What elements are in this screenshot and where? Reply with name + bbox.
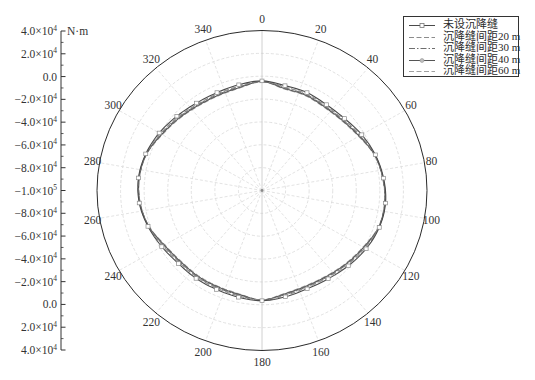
series-marker (175, 114, 179, 118)
radial-axis-tick-label: 4.0×104 (21, 24, 57, 38)
series-marker (346, 264, 350, 268)
series-marker (343, 117, 347, 121)
grid-spoke (156, 68, 262, 191)
grid-spoke (206, 40, 262, 190)
series-marker (176, 262, 180, 266)
angle-tick-label: 20 (315, 23, 327, 35)
series-marker (305, 91, 309, 95)
series-marker (160, 245, 164, 249)
legend-line-sample (408, 43, 436, 53)
series-marker (237, 83, 241, 87)
angle-tick-label: 280 (84, 155, 102, 167)
grid-spoke (262, 191, 318, 341)
series-marker (146, 225, 150, 229)
radial-axis-tick-label: 2.0×104 (21, 320, 57, 334)
grid-spoke (100, 191, 262, 219)
circle-marker-icon (420, 58, 424, 62)
series-marker (384, 201, 388, 205)
radial-axis-tick-label: −8.0×104 (14, 160, 57, 174)
radial-axis-tick-label: −6.0×104 (14, 229, 57, 243)
legend-line-sample (408, 20, 436, 30)
radial-axis-tick-label: −2.0×104 (14, 274, 57, 288)
angle-tick-label: 40 (367, 53, 379, 65)
angle-tick-label: 200 (195, 346, 213, 358)
legend-label: 沉降缝间距20 m (443, 30, 520, 42)
legend-item-60m: 沉降缝间距60 m (404, 65, 518, 77)
series-marker (260, 79, 264, 83)
series-marker (283, 84, 287, 88)
angle-tick-label: 160 (312, 346, 330, 358)
grid-spoke (262, 163, 424, 191)
series-marker (373, 153, 377, 157)
grid-spoke (262, 191, 368, 314)
series-marker (194, 277, 198, 281)
series-marker (364, 247, 368, 251)
series-marker (215, 91, 219, 95)
angle-tick-label: 0 (259, 13, 265, 25)
series-marker (360, 133, 364, 137)
radial-axis-unit: N·m (67, 25, 88, 37)
legend-label: 未设沉降缝 (443, 18, 498, 30)
radial-axis-tick-label: 2.0×104 (21, 46, 57, 60)
angle-tick-label: 260 (84, 214, 102, 226)
radial-axis-tick-label: 4.0×104 (21, 343, 57, 357)
center-dot (261, 189, 264, 192)
legend-line-sample (408, 66, 436, 76)
legend: 未设沉降缝 沉降缝间距20 m 沉降缝间距30 m 沉降缝间距40 m 沉降缝间… (403, 16, 519, 77)
angle-tick-label: 340 (195, 23, 213, 35)
radial-axis-tick-label: −6.0×104 (14, 137, 57, 151)
square-marker-icon (420, 24, 424, 28)
radial-axis-tick-label: −1.0×105 (14, 183, 57, 197)
angle-tick-label: 140 (364, 316, 382, 328)
series-marker (215, 288, 219, 292)
angle-tick-label: 180 (253, 356, 271, 368)
angle-tick-label: 120 (402, 270, 420, 282)
series-marker (137, 201, 141, 205)
radial-axis-tick-label: 0.0 (43, 298, 58, 310)
angle-tick-label: 300 (104, 99, 122, 111)
series-marker (237, 295, 241, 299)
radial-axis-tick-label: −2.0×104 (14, 92, 57, 106)
legend-line-sample (408, 55, 436, 65)
grid-spoke (262, 40, 318, 190)
angle-tick-label: 220 (143, 316, 161, 328)
radial-axis-tick-label: 0.0 (43, 71, 58, 83)
legend-label: 沉降缝间距60 m (443, 64, 520, 76)
series-marker (194, 101, 198, 105)
radial-axis-tick-label: −4.0×104 (14, 251, 57, 265)
grid-spoke (262, 191, 424, 219)
series-marker (377, 226, 381, 230)
angle-tick-label: 80 (426, 155, 438, 167)
series-marker (157, 131, 161, 135)
series-marker (305, 287, 309, 291)
legend-line-sample (408, 32, 436, 42)
angle-tick-label: 100 (423, 214, 441, 226)
series-marker (144, 152, 148, 156)
series-marker (324, 103, 328, 107)
angle-tick-label: 320 (143, 53, 161, 65)
series-marker (326, 277, 330, 281)
radial-axis: 4.0×1042.0×1040.0−2.0×104−4.0×104−6.0×10… (14, 24, 65, 357)
angle-tick-label: 240 (104, 270, 122, 282)
legend-label: 沉降缝间距30 m (443, 41, 520, 53)
grid-spoke (206, 191, 262, 341)
legend-label: 沉降缝间距40 m (443, 53, 520, 65)
radial-axis-tick-label: −4.0×104 (14, 115, 57, 128)
series-marker (260, 299, 264, 303)
polar-chart-figure: 0204060801001201401601802002202402602803… (0, 0, 535, 380)
angle-tick-label: 60 (405, 99, 417, 111)
series-marker (382, 176, 386, 180)
series-marker (136, 176, 140, 180)
grid-spoke (100, 163, 262, 191)
radial-axis-tick-label: −8.0×104 (14, 206, 57, 220)
series-marker (283, 295, 287, 299)
